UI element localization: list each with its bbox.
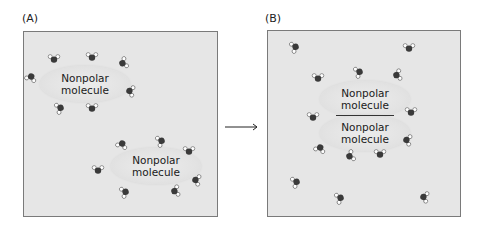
water-molecule-icon [85,50,99,64]
water-molecule-icon [402,41,416,55]
water-molecule-icon [288,40,302,54]
water-molecule-icon [154,134,168,148]
water-molecule-icon [47,52,61,66]
water-molecule-icon [313,141,327,155]
water-molecule-icon [343,149,357,163]
water-molecule-icon [333,191,347,205]
water-molecule-icon [53,101,67,115]
water-molecule-icon [123,84,137,98]
water-molecule-icon [311,71,325,85]
water-molecule-icon [118,185,132,199]
water-molecule-icon [189,173,203,187]
water-molecule-icon [85,101,99,115]
water-molecule-icon [400,133,414,147]
water-molecule-icon [182,144,196,158]
water-molecule-icon [417,190,431,204]
water-molecule-icon [373,147,387,161]
water-molecule-icon [115,137,129,151]
panel-a-label: (A) [22,12,38,25]
nonpolar-molecule-b2-label: Nonpolar molecule [320,121,410,145]
water-molecule-icon [116,56,130,70]
water-molecule-icon [352,65,366,79]
water-molecule-icon [91,163,105,177]
water-molecule-icon [390,68,404,82]
water-molecule-icon [404,105,418,119]
nonpolar-molecule-a1-label: Nonpolar molecule [40,72,130,96]
nonpolar-molecule-b1-label: Nonpolar molecule [320,87,410,111]
water-molecule-icon [168,184,182,198]
panel-b-label: (B) [265,12,281,25]
molecule-interface-line [336,115,394,116]
water-molecule-icon [289,175,303,189]
arrow-right-icon [224,122,260,132]
water-molecule-icon [24,70,38,84]
water-molecule-icon [306,110,320,124]
